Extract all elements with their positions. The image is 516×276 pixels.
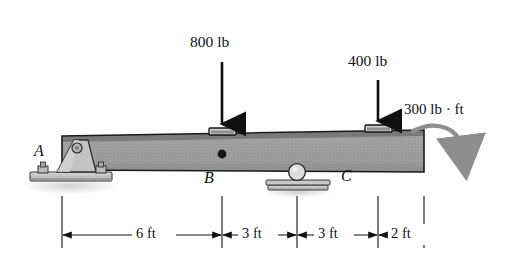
beam xyxy=(62,130,424,172)
pin-anchor-bolt-left xyxy=(38,162,48,173)
dimension-label-3ft-1: 3 ft xyxy=(242,225,262,242)
point-label-C: C xyxy=(341,167,352,185)
beam-diagram-figure: 800 lb 400 lb 300 lb · ft A B C 6 ft 3 f… xyxy=(0,0,516,276)
load-label-800: 800 lb xyxy=(190,33,229,51)
beam-center-marker-B xyxy=(218,150,227,159)
dimension-label-2ft: 2 ft xyxy=(391,225,411,242)
dimension-label-3ft-2: 3 ft xyxy=(318,225,338,242)
point-label-A: A xyxy=(34,142,44,160)
load-arrow-800 xyxy=(209,62,236,135)
moment-label-300: 300 lb · ft xyxy=(404,101,464,118)
dimension-label-6ft: 6 ft xyxy=(136,225,156,242)
point-label-B: B xyxy=(204,169,214,187)
roller-wheel xyxy=(289,164,306,181)
load-label-400: 400 lb xyxy=(348,52,387,70)
load-arrow-400 xyxy=(365,80,392,132)
